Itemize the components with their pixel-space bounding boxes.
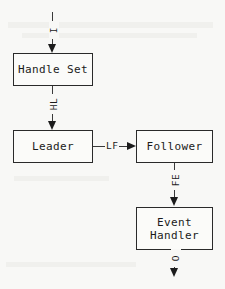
node-follower[interactable]: Follower [136,130,213,163]
edge-label-fe: FE [171,170,181,190]
edge-leader-to-follower-arrowhead [127,142,136,150]
edge-input-arrowhead [48,44,56,53]
edge-follower-to-event-handler-arrowhead [170,197,178,206]
node-handle-set[interactable]: Handle Set [13,53,93,86]
scan-artifact [14,176,109,181]
scan-artifact [6,262,136,267]
edge-event-handler-to-output-arrowhead [170,268,178,277]
edge-label-lf: LF [105,141,119,151]
node-event-handler[interactable]: Event Handler [136,207,213,250]
node-leader[interactable]: Leader [13,130,93,163]
edge-handle-set-to-leader-arrowhead [48,121,56,130]
edge-label-input: I [49,21,59,39]
edge-label-hl: HL [49,94,59,114]
diagram-canvas: I Handle Set HL Leader LF Follower FE Ev… [0,0,225,289]
edge-label-output: O [171,249,181,267]
scan-artifact [8,22,213,28]
